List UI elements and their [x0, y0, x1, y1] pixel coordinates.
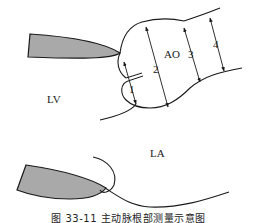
- measurement-label-4: 4: [213, 39, 219, 50]
- aortic-wall-upper: [120, 8, 220, 53]
- aortic-mitral-continuity: [100, 104, 136, 120]
- label-lv: LV: [47, 94, 61, 105]
- measurement-label-3: 3: [188, 49, 194, 60]
- label-ao: AO: [164, 49, 180, 60]
- figure-caption: 图 33-11 主动脉根部测量示意图: [0, 210, 257, 223]
- diagram-drawing: [0, 0, 257, 223]
- upper-leaflet-shape: [28, 34, 120, 58]
- aortic-root-diagram: LV AO LA 1 2 3 4 图 33-11 主动脉根部测量示意图: [0, 0, 257, 223]
- measurement-label-2: 2: [153, 64, 159, 75]
- measurement-label-1: 1: [129, 84, 135, 95]
- label-la: LA: [150, 148, 165, 159]
- posterior-wall: [93, 157, 229, 207]
- lower-leaflet-shape: [17, 165, 106, 199]
